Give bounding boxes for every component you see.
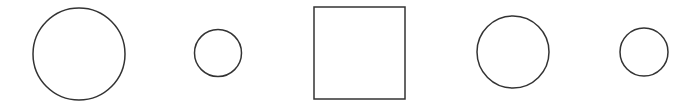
square — [314, 7, 405, 99]
medium-circle — [477, 16, 549, 88]
small-circle — [195, 30, 242, 77]
shapes-diagram — [0, 0, 695, 104]
small-circle-right — [620, 28, 668, 76]
shapes-svg — [0, 0, 695, 104]
large-circle — [33, 8, 125, 100]
